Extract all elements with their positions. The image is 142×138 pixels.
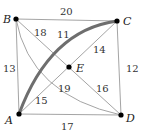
weight-label-EC: 14	[93, 44, 106, 55]
weight-label-AE: 15	[35, 95, 48, 106]
vertex-label-D: D	[125, 112, 135, 125]
edge-B-C	[16, 19, 117, 21]
vertex-label-A: A	[4, 114, 13, 127]
node-E	[66, 64, 71, 69]
edge-B-A	[16, 19, 19, 114]
weight-label-BD-curve: 19	[58, 83, 71, 94]
node-B	[13, 16, 18, 21]
vertex-label-E: E	[75, 62, 84, 75]
edge-C-D	[117, 21, 121, 115]
weight-label-CD: 12	[126, 63, 139, 74]
edge-A-D	[19, 114, 121, 115]
weighted-graph-diagram: A B C D E 20 13 17 12 18 16 15 14 19 11	[0, 0, 142, 138]
weight-label-BA: 13	[3, 63, 16, 74]
weight-label-BE: 18	[34, 27, 47, 38]
vertex-label-B: B	[2, 13, 11, 26]
weight-label-AD: 17	[61, 121, 74, 132]
weight-label-AC-curve: 11	[57, 29, 70, 40]
weight-label-BC: 20	[60, 6, 73, 17]
node-C	[114, 18, 119, 23]
node-A	[16, 111, 21, 116]
weight-label-ED: 16	[96, 83, 109, 94]
vertex-label-C: C	[123, 15, 132, 28]
node-D	[118, 112, 123, 117]
